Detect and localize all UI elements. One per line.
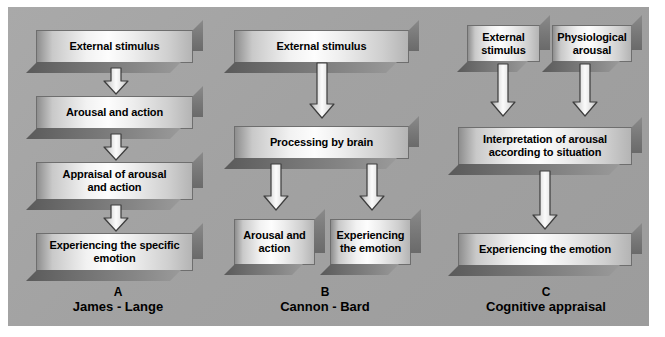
box-a-arousal-and-action-label: Arousal and action — [60, 106, 169, 119]
diagram-column-cannon-bard: External stimulus — [226, 7, 424, 326]
caption-name-james-lange: James - Lange — [20, 299, 216, 314]
box-a-arousal-and-action: Arousal and action — [36, 96, 193, 129]
box-b-processing-by-brain: Processing by brain — [234, 126, 409, 159]
box-a-appraisal-label: Appraisal of arousal and action — [57, 168, 173, 194]
arrow-c-1 — [490, 63, 516, 117]
box-c-physiological-arousal-label: Physiological arousal — [551, 31, 633, 57]
arrow-a-1 — [103, 67, 129, 95]
box-b-arousal-and-action-label: Arousal and action — [237, 229, 311, 255]
box-a-external-stimulus: External stimulus — [36, 30, 193, 63]
box-a-appraisal: Appraisal of arousal and action — [36, 162, 193, 200]
arrow-c-3 — [532, 170, 558, 230]
box-b-external-stimulus: External stimulus — [234, 30, 409, 63]
caption-cognitive-appraisal: C Cognitive appraisal — [448, 285, 644, 314]
box-b-processing-by-brain-label: Processing by brain — [264, 136, 379, 149]
box-c-physiological-arousal: Physiological arousal — [552, 25, 632, 62]
caption-letter-c: C — [448, 285, 644, 299]
box-a-experiencing-specific-emotion: Experiencing the specific emotion — [36, 233, 193, 271]
box-b-arousal-and-action: Arousal and action — [234, 219, 315, 265]
box-a-external-stimulus-label: External stimulus — [64, 40, 166, 53]
box-b-external-stimulus-label: External stimulus — [271, 40, 373, 53]
arrow-a-2 — [103, 133, 129, 161]
arrow-b-2 — [263, 163, 289, 211]
box-c-experiencing-the-emotion-label: Experiencing the emotion — [473, 243, 617, 256]
caption-name-cognitive-appraisal: Cognitive appraisal — [448, 299, 644, 314]
box-c-interpretation-of-arousal-label: Interpretation of arousal according to s… — [477, 133, 613, 159]
diagram-panel: External stimulus — [8, 7, 649, 326]
caption-letter-a: A — [20, 285, 216, 299]
box-c-interpretation-of-arousal: Interpretation of arousal according to s… — [458, 127, 632, 165]
emotion-theories-figure: External stimulus — [0, 0, 665, 337]
arrow-b-3 — [359, 163, 385, 211]
box-c-experiencing-the-emotion: Experiencing the emotion — [458, 233, 632, 266]
caption-letter-b: B — [226, 285, 424, 299]
box-c-external-stimulus-label: External stimulus — [475, 31, 531, 57]
box-a-experiencing-specific-emotion-label: Experiencing the specific emotion — [43, 239, 185, 265]
arrow-c-2 — [572, 63, 598, 117]
arrow-a-3 — [103, 204, 129, 232]
box-b-experiencing-the-emotion-label: Experiencing the emotion — [331, 229, 411, 255]
box-c-external-stimulus: External stimulus — [467, 25, 540, 62]
caption-james-lange: A James - Lange — [20, 285, 216, 314]
arrow-b-1 — [309, 62, 335, 119]
diagram-column-cognitive-appraisal: External stimulus Physiological arousal — [448, 7, 644, 326]
caption-cannon-bard: B Cannon - Bard — [226, 285, 424, 314]
box-b-experiencing-the-emotion: Experiencing the emotion — [330, 219, 411, 265]
diagram-column-james-lange: External stimulus — [20, 7, 216, 326]
caption-name-cannon-bard: Cannon - Bard — [226, 299, 424, 314]
